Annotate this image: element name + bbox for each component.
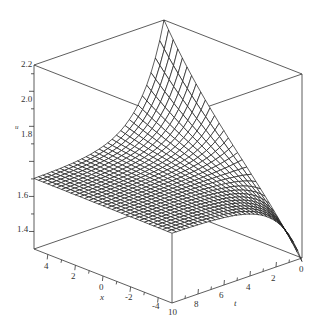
x-tick-4: 4 bbox=[44, 262, 49, 271]
x-tick-0: 0 bbox=[99, 283, 104, 292]
u-axis-label: u bbox=[15, 124, 19, 131]
t-tick-8: 8 bbox=[194, 300, 199, 309]
x-axis-label: x bbox=[100, 293, 104, 302]
u-tick-1.6: 1.6 bbox=[17, 191, 28, 200]
x-tick-2: 2 bbox=[71, 272, 76, 281]
u-tick-2.0: 2.0 bbox=[21, 95, 32, 104]
t-tick-2: 2 bbox=[271, 274, 276, 283]
t-tick-0: 0 bbox=[299, 265, 304, 274]
t-axis-label: t bbox=[234, 299, 237, 308]
x-tick-neg4: -4 bbox=[152, 302, 160, 311]
t-tick-4: 4 bbox=[246, 283, 251, 292]
surface-plot bbox=[0, 0, 326, 334]
x-tick-neg2: -2 bbox=[125, 293, 133, 302]
u-tick-1.8: 1.8 bbox=[21, 130, 32, 139]
t-tick-6: 6 bbox=[219, 291, 224, 300]
u-tick-2.2: 2.2 bbox=[21, 60, 32, 69]
t-tick-10: 10 bbox=[168, 308, 177, 317]
surface-mesh bbox=[34, 20, 302, 262]
u-tick-1.4: 1.4 bbox=[17, 225, 28, 234]
